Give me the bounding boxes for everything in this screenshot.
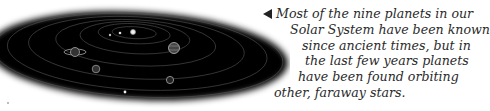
caption-line: Solar System have been known <box>290 24 490 37</box>
caption-line: have been found orbiting <box>298 71 459 84</box>
left-triangle-icon <box>263 9 272 19</box>
caption-line: Most of the nine planets in our <box>276 8 473 21</box>
caption-line: the last few years planets <box>305 55 469 68</box>
caption-line: other, faraway stars. <box>274 87 405 100</box>
caption-line: since ancient times, but in <box>302 40 471 53</box>
